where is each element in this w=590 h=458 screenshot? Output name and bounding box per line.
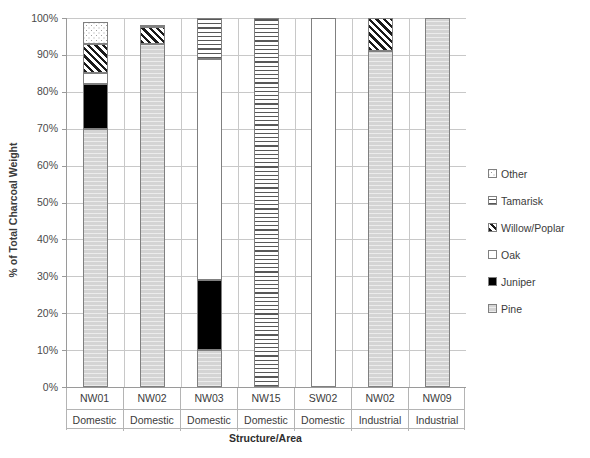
- legend-label: Other: [501, 168, 527, 180]
- legend-swatch-willow-icon: [488, 223, 497, 232]
- y-tick-label: 10%: [18, 345, 58, 356]
- category-separator: [352, 18, 353, 387]
- bottom-caption: [6, 449, 566, 458]
- bar-column[interactable]: [83, 18, 108, 387]
- category-separator: [238, 18, 239, 387]
- legend-item-juniper[interactable]: Juniper: [488, 268, 588, 295]
- x-axis-group-row: DomesticDomesticDomesticDomesticDomestic…: [66, 409, 465, 430]
- bar-column[interactable]: [311, 18, 336, 387]
- x-axis-name-row: NW01NW02NW03NW15SW02NW02NW09: [66, 388, 465, 409]
- legend-label: Oak: [501, 249, 520, 261]
- bar-segment-juniper[interactable]: [83, 84, 108, 128]
- x-axis-category-label: NW02: [123, 388, 180, 409]
- bar-column[interactable]: [197, 18, 222, 387]
- plot-area: [66, 18, 465, 387]
- legend-item-willow[interactable]: Willow/Poplar: [488, 214, 588, 241]
- legend-item-pine[interactable]: Pine: [488, 295, 588, 322]
- y-tick-label: 60%: [18, 160, 58, 171]
- bar-column[interactable]: [425, 18, 450, 387]
- bar-segment-other[interactable]: [83, 22, 108, 44]
- legend: OtherTamariskWillow/PoplarOakJuniperPine: [488, 160, 588, 322]
- bar-segment-oak[interactable]: [83, 73, 108, 84]
- x-axis-category-label: NW09: [408, 388, 465, 409]
- x-axis-category-label: NW01: [66, 388, 123, 409]
- legend-swatch-oak-icon: [488, 250, 497, 259]
- chart-container: % of Total Charcoal Weight 100%90%80%70%…: [0, 0, 590, 458]
- bar-segment-willow-poplar[interactable]: [140, 27, 165, 44]
- bar-column[interactable]: [368, 18, 393, 387]
- y-tick-label: 50%: [18, 197, 58, 208]
- y-tick-label: 100%: [18, 13, 58, 24]
- bar-segment-juniper[interactable]: [197, 280, 222, 350]
- x-axis-group-label: Domestic: [237, 410, 294, 431]
- bar-segment-willow-poplar[interactable]: [83, 44, 108, 74]
- x-axis-group-label: Domestic: [180, 410, 237, 431]
- y-tick-label: 70%: [18, 123, 58, 134]
- y-tick-label: 80%: [18, 86, 58, 97]
- bar-column[interactable]: [140, 18, 165, 387]
- legend-item-tamarisk[interactable]: Tamarisk: [488, 187, 588, 214]
- bar-segment-oak[interactable]: [311, 18, 336, 387]
- y-tick-label: 30%: [18, 271, 58, 282]
- x-axis-group-label: Domestic: [123, 410, 180, 431]
- x-axis-title: Structure/Area: [66, 432, 465, 444]
- bar-segment-pine[interactable]: [368, 51, 393, 387]
- legend-label: Willow/Poplar: [501, 222, 565, 234]
- bar-segment-pine[interactable]: [140, 44, 165, 387]
- category-separator: [295, 18, 296, 387]
- legend-label: Juniper: [501, 276, 535, 288]
- x-axis-group-label: Domestic: [294, 410, 351, 431]
- y-axis-ticks: 100%90%80%70%60%50%40%30%20%10%0%: [20, 12, 62, 388]
- category-separator: [181, 18, 182, 387]
- bar-segment-pine[interactable]: [197, 350, 222, 387]
- bar-segment-tamarisk[interactable]: [254, 18, 279, 387]
- bar-segment-willow-poplar[interactable]: [368, 18, 393, 51]
- legend-swatch-tamarisk-icon: [488, 196, 497, 205]
- legend-swatch-pine-icon: [488, 304, 497, 313]
- bar-segment-other[interactable]: [140, 25, 165, 27]
- legend-item-oak[interactable]: Oak: [488, 241, 588, 268]
- y-tick-label: 20%: [18, 308, 58, 319]
- bar-segment-pine[interactable]: [425, 18, 450, 387]
- x-axis-group-label: Domestic: [66, 410, 123, 431]
- x-axis: NW01NW02NW03NW15SW02NW02NW09 DomesticDom…: [66, 387, 465, 429]
- legend-label: Pine: [501, 303, 522, 315]
- x-axis-group-label: Industrial: [408, 410, 465, 431]
- legend-item-other[interactable]: Other: [488, 160, 588, 187]
- category-separator: [409, 18, 410, 387]
- bar-segment-oak[interactable]: [197, 59, 222, 280]
- x-axis-group-label: Industrial: [351, 410, 408, 431]
- x-axis-category-label: NW03: [180, 388, 237, 409]
- y-tick-label: 40%: [18, 234, 58, 245]
- legend-swatch-juniper-icon: [488, 277, 497, 286]
- category-separator: [124, 18, 125, 387]
- y-tick-label: 0%: [18, 382, 58, 393]
- legend-swatch-other-icon: [488, 169, 497, 178]
- x-axis-category-label: NW15: [237, 388, 294, 409]
- legend-label: Tamarisk: [501, 195, 543, 207]
- x-axis-category-label: SW02: [294, 388, 351, 409]
- bar-segment-pine[interactable]: [83, 129, 108, 387]
- x-axis-category-label: NW02: [351, 388, 408, 409]
- bar-column[interactable]: [254, 18, 279, 387]
- bar-segment-tamarisk[interactable]: [197, 18, 222, 59]
- y-tick-label: 90%: [18, 49, 58, 60]
